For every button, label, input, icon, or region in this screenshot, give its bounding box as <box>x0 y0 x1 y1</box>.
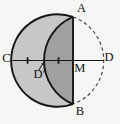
label-point-M: M <box>74 61 85 75</box>
label-point-B: B <box>76 104 84 118</box>
crescent-diagram-svg: A B C D M D′ <box>0 0 120 124</box>
geometry-figure: A B C D M D′ <box>0 0 120 124</box>
label-point-C: C <box>2 51 10 65</box>
label-point-Dprime: D′ <box>34 67 46 81</box>
label-point-D: D <box>104 50 113 64</box>
label-point-A: A <box>77 1 86 15</box>
